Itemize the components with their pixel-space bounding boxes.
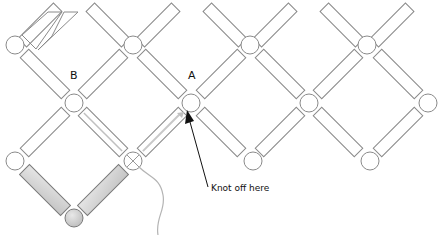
bugle-bead bbox=[255, 107, 304, 156]
label-b: B bbox=[70, 70, 78, 81]
bugle-bead bbox=[20, 49, 69, 98]
round-bead bbox=[241, 36, 259, 54]
bead-netting-diagram bbox=[0, 0, 441, 235]
round-bead-b bbox=[65, 94, 83, 112]
label-a: A bbox=[188, 70, 196, 81]
bugle-bead bbox=[320, 3, 364, 47]
bugle-bead bbox=[313, 107, 362, 156]
knot-annotation: Knot off here bbox=[211, 184, 269, 193]
highlighted-round-bead bbox=[65, 209, 83, 227]
bugle-bead bbox=[370, 3, 414, 47]
round-bead bbox=[300, 94, 318, 112]
bugle-bead bbox=[373, 49, 422, 98]
highlighted-bugle-beads bbox=[20, 165, 129, 216]
bugle-bead bbox=[313, 49, 362, 98]
thread-tail bbox=[139, 167, 164, 235]
round-bead bbox=[6, 36, 24, 54]
bugle-bead bbox=[196, 107, 245, 156]
bugle-lattice bbox=[18, 3, 423, 157]
round-bead bbox=[361, 152, 379, 170]
bugle-beads bbox=[22, 12, 78, 50]
round-bead bbox=[124, 36, 142, 54]
bugle-bead bbox=[137, 49, 186, 98]
top-bars bbox=[22, 12, 78, 50]
bugle-bead bbox=[196, 49, 245, 98]
bugle-bead bbox=[253, 3, 297, 47]
bugle-bead bbox=[86, 3, 130, 47]
bugle-bead bbox=[20, 107, 69, 156]
round-bead bbox=[419, 94, 437, 112]
round-beads bbox=[6, 36, 437, 170]
bugle-bead bbox=[203, 3, 247, 47]
bugle-bead bbox=[373, 107, 422, 156]
round-bead bbox=[244, 152, 262, 170]
bugle-bead bbox=[136, 3, 180, 47]
round-bead bbox=[6, 152, 24, 170]
round-bead bbox=[358, 36, 376, 54]
bugle-bead bbox=[18, 3, 62, 47]
knot-arrow-icon bbox=[185, 110, 208, 187]
round-bead-a bbox=[182, 94, 200, 112]
threaded-bugle-beads bbox=[78, 107, 186, 156]
bugle-bead bbox=[255, 49, 304, 98]
bugle-bead bbox=[78, 49, 127, 98]
